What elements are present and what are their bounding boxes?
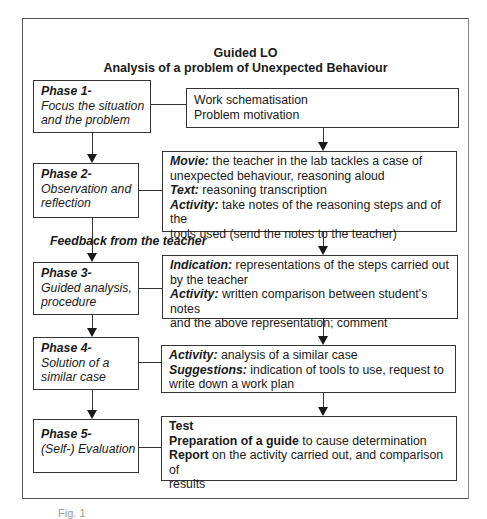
indication-label: Indication:: [170, 258, 232, 272]
content-2-line-2: unexpected behaviour, reasoning aloud: [170, 169, 456, 184]
arrow-down-icon: [318, 407, 328, 416]
content-box-2: Movie: the teacher in the lab tackles a …: [162, 151, 457, 232]
diagram-title: Guided LO: [22, 46, 469, 61]
phase-2-box: Phase 2- Observation and reflection: [33, 163, 139, 218]
content-5-line-4: results: [169, 477, 456, 492]
arrow-down-icon: [87, 253, 97, 262]
phase-3-subtitle: Guided analysis, procedure: [41, 281, 138, 310]
content-5-line-1: Test: [169, 419, 456, 434]
content-2-line-1: Movie: the teacher in the lab tackles a …: [170, 154, 456, 169]
text-label: Text:: [170, 183, 199, 197]
right-arrow-1-shaft: [323, 128, 324, 142]
right-arrow-2-shaft: [323, 232, 324, 246]
connector-1: [151, 104, 186, 105]
content-2-line-5: tools used (send the notes to the teache…: [170, 227, 456, 242]
connector-5: [139, 447, 161, 448]
phase-1-title: Phase 1-: [41, 84, 150, 99]
phase-1-box: Phase 1- Focus the situation and the pro…: [33, 80, 151, 133]
content-4-line-3: write down a work plan: [169, 377, 455, 392]
phase-5-box: Phase 5- (Self-) Evaluation: [33, 419, 139, 473]
phase-4-subtitle: Solution of a similar case: [41, 356, 138, 385]
arrow-down-icon: [318, 336, 328, 345]
phase-1-subtitle: Focus the situation and the problem: [41, 99, 150, 128]
phase-5-title: Phase 5-: [41, 427, 138, 442]
phase-2-subtitle: Observation and reflection: [41, 182, 138, 211]
right-arrow-4-shaft: [323, 393, 324, 407]
phase-3-box: Phase 3- Guided analysis, procedure: [33, 262, 139, 315]
phase-5-subtitle: (Self-) Evaluation: [41, 442, 138, 457]
content-box-4: Activity: analysis of a similar case Sug…: [161, 345, 456, 393]
suggestions-label: Suggestions:: [169, 363, 247, 377]
arrow-down-icon: [87, 410, 97, 419]
content-2-line-3: Text: reasoning transcription: [170, 183, 456, 198]
content-box-3: Indication: representations of the steps…: [162, 255, 458, 319]
activity-label: Activity:: [170, 287, 219, 301]
figure-caption: Fig. 1: [58, 507, 86, 519]
content-4-line-2: Suggestions: indication of tools to use,…: [169, 363, 455, 378]
content-4-line-1: Activity: analysis of a similar case: [169, 348, 455, 363]
movie-label: Movie:: [170, 154, 209, 168]
connector-3: [139, 288, 162, 289]
content-3-line-3: Activity: written comparison between stu…: [170, 287, 457, 316]
left-arrow-4-shaft: [92, 390, 93, 410]
test-label: Test: [169, 419, 193, 433]
phase-4-title: Phase 4-: [41, 341, 138, 356]
content-box-5: Test Preparation of a guide to cause det…: [161, 416, 457, 481]
activity-label: Activity:: [170, 198, 219, 212]
left-arrow-1-shaft: [92, 133, 93, 154]
content-5-line-3: Report on the activity carried out, and …: [169, 448, 456, 477]
connector-4: [139, 362, 161, 363]
content-3-line-4: and the above representation; comment: [170, 316, 457, 331]
arrow-down-icon: [318, 142, 328, 151]
content-2-line-4: Activity: take notes of the reasoning st…: [170, 198, 456, 227]
arrow-down-icon: [87, 328, 97, 337]
left-arrow-3-shaft: [92, 315, 93, 328]
content-3-line-1: Indication: representations of the steps…: [170, 258, 457, 273]
right-arrow-3-shaft: [323, 319, 324, 336]
activity-label: Activity:: [169, 348, 218, 362]
content-3-line-2: by the teacher: [170, 273, 457, 288]
content-box-1: Work schematisation Problem motivation: [186, 88, 459, 128]
content-1-line-1: Work schematisation: [194, 93, 458, 108]
content-1-line-2: Problem motivation: [194, 108, 458, 123]
diagram-subtitle: Analysis of a problem of Unexpected Beha…: [22, 61, 469, 76]
phase-4-box: Phase 4- Solution of a similar case: [33, 337, 139, 390]
connector-2: [139, 190, 162, 191]
arrow-down-icon: [87, 154, 97, 163]
arrow-down-icon: [318, 246, 328, 255]
phase-3-title: Phase 3-: [41, 266, 138, 281]
feedback-label: Feedback from the teacher: [50, 234, 207, 248]
content-5-line-2: Preparation of a guide to cause determin…: [169, 434, 456, 449]
phase-2-title: Phase 2-: [41, 167, 138, 182]
preparation-label: Preparation of a guide: [169, 434, 299, 448]
report-label: Report: [169, 448, 209, 462]
